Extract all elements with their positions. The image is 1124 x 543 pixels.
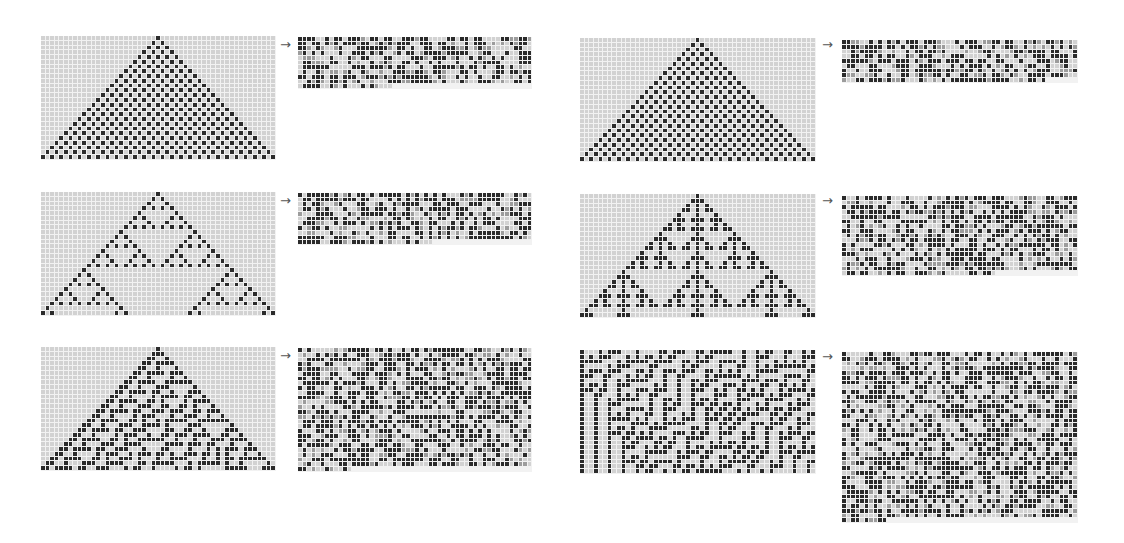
ca-grid	[41, 347, 276, 471]
output-grid	[298, 37, 532, 89]
ca-grid	[580, 350, 816, 474]
arrow-right-icon: →	[822, 196, 833, 206]
output-grid	[298, 193, 532, 245]
arrow-right-icon: →	[280, 40, 291, 50]
ca-rule-150-output-sequence	[842, 196, 1078, 276]
output-grid	[842, 196, 1078, 276]
arrow-right-icon: →	[280, 196, 291, 206]
ca-rule-250-output-sequence	[298, 37, 532, 89]
output-grid	[298, 348, 532, 472]
ca-grid	[580, 194, 816, 318]
ca-rule-250-evolution	[41, 36, 276, 160]
ca-rule-50-evolution	[580, 38, 816, 162]
ca-rule-30-evolution	[41, 347, 276, 471]
arrow-right-icon: →	[822, 352, 833, 362]
ca-grid	[41, 192, 276, 316]
ca-rule-30-output-sequence	[298, 348, 532, 472]
ca-rule-45-output-sequence	[842, 352, 1078, 523]
ca-rule-90-evolution	[41, 192, 276, 316]
ca-rule-90-output-sequence	[298, 193, 532, 245]
ca-rule-45-evolution	[580, 350, 816, 474]
ca-rule-50-output-sequence	[842, 40, 1078, 83]
ca-grid	[580, 38, 816, 162]
output-grid	[842, 40, 1078, 83]
ca-grid	[41, 36, 276, 160]
ca-rule-150-evolution	[580, 194, 816, 318]
output-grid	[842, 352, 1078, 523]
arrow-right-icon: →	[280, 351, 291, 361]
arrow-right-icon: →	[822, 40, 833, 50]
